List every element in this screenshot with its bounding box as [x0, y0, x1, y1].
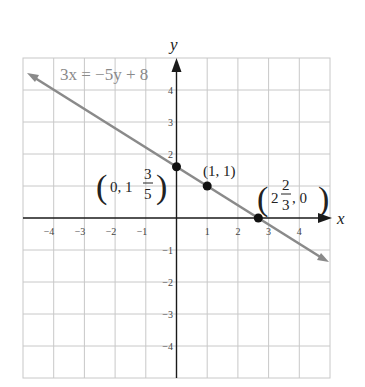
x-tick-labels: −4 −3 −2 −1 1 2 3 4 [44, 226, 302, 237]
y-tick: −3 [162, 309, 173, 320]
y-axis-arrow-icon [172, 58, 182, 72]
fraction-numerator: 2 [282, 177, 290, 193]
fraction-denominator: 3 [282, 197, 290, 213]
right-paren: ) [318, 180, 329, 218]
x-tick: 1 [205, 226, 210, 237]
y-tick: 2 [168, 149, 173, 160]
equation-label: 3x = −5y + 8 [60, 65, 148, 84]
point-label-y-intercept: ( 0, 1 3 5 ) [96, 166, 167, 206]
line-arrow-right-icon [317, 253, 329, 262]
fraction-denominator: 5 [144, 186, 152, 202]
x-tick: 2 [235, 226, 240, 237]
left-paren: ( [96, 168, 107, 206]
point-label-1-1: (1, 1) [203, 163, 236, 180]
x-tick: −1 [137, 226, 148, 237]
y-tick: −1 [162, 245, 173, 256]
x-axis-label: x [336, 209, 345, 228]
y-tick: −2 [162, 277, 173, 288]
label-tail: , 0 [292, 190, 307, 206]
y-tick: −4 [162, 341, 173, 352]
x-tick: 4 [297, 226, 302, 237]
x-tick: −4 [44, 226, 55, 237]
y-tick: 3 [168, 117, 173, 128]
y-axis-label: y [168, 35, 178, 54]
point-y-intercept [172, 162, 181, 171]
y-tick: 4 [168, 85, 173, 96]
point-label-x-intercept: ( 2 2 3 , 0 ) [257, 177, 329, 218]
label-whole: 2 [271, 190, 279, 206]
label-whole: 0, 1 [110, 179, 133, 195]
x-tick: −3 [75, 226, 86, 237]
point-1-1 [203, 182, 212, 191]
left-paren: ( [257, 180, 268, 218]
x-tick: −2 [106, 226, 117, 237]
fraction-numerator: 3 [144, 166, 152, 182]
x-tick: 3 [266, 226, 271, 237]
right-paren: ) [156, 168, 167, 206]
x-axis [23, 213, 332, 223]
coordinate-plane: x y −4 −3 −2 −1 1 2 3 4 4 3 2 −1 −2 −3 −… [0, 0, 365, 387]
